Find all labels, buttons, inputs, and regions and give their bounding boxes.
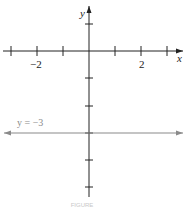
x-axis-label: x (176, 52, 182, 64)
x-tick-label-2: 2 (139, 58, 145, 70)
line-label: y = −3 (17, 117, 43, 128)
x-axis: −2 2 x (3, 46, 183, 70)
figure-caption: FIGURE (71, 202, 94, 208)
graph: −2 2 x y y = −3 FIGURE (0, 0, 187, 209)
y-axis-label: y (79, 7, 85, 19)
y-axis: y (79, 6, 93, 197)
x-tick-label-neg2: −2 (30, 58, 42, 70)
line-y-equals-neg3: y = −3 (4, 117, 183, 133)
